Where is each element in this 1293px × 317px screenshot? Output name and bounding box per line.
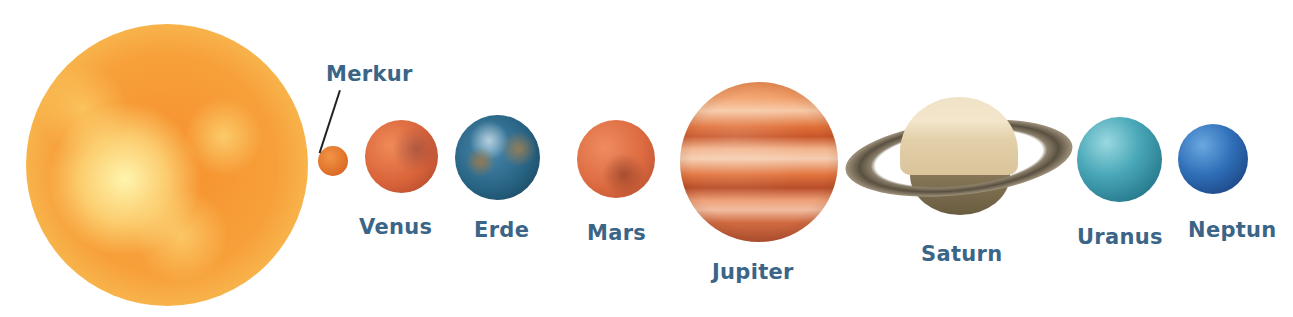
label-saturn: Saturn — [921, 242, 1002, 266]
label-jupiter: Jupiter — [712, 260, 794, 284]
planet-mercury — [318, 146, 348, 176]
planet-venus — [365, 120, 438, 193]
label-uranus: Uranus — [1077, 225, 1163, 249]
sun — [26, 24, 308, 306]
planet-mars — [577, 120, 655, 198]
mercury-leader-line — [319, 90, 341, 153]
planet-earth — [455, 115, 540, 200]
planet-neptune — [1178, 124, 1248, 194]
planet-jupiter — [680, 82, 838, 242]
label-earth: Erde — [474, 218, 529, 242]
label-mercury: Merkur — [326, 62, 413, 86]
label-venus: Venus — [359, 215, 432, 239]
label-neptune: Neptun — [1188, 218, 1277, 242]
label-mars: Mars — [587, 221, 646, 245]
planet-uranus — [1077, 117, 1162, 202]
planet-saturn — [900, 97, 1018, 175]
